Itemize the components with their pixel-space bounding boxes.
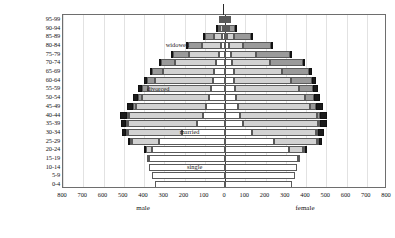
- bar-segment-married: [129, 112, 203, 119]
- bar-segment-married: [128, 129, 182, 136]
- bar-segment-single: [149, 155, 225, 162]
- y-tick-35-39: 35-39: [34, 119, 60, 126]
- bar-segment-widowed: [173, 51, 189, 58]
- pyramid-bar-row: [63, 85, 385, 92]
- annotation-single: single: [187, 163, 202, 171]
- bar-segment-single: [225, 85, 235, 92]
- pyramid-bar-row: [63, 94, 385, 101]
- bar-segment-widowed: [270, 59, 303, 66]
- bar-segment-married: [189, 51, 219, 58]
- bar-segment-married: [235, 85, 299, 92]
- pyramid-bar-female: [225, 85, 318, 92]
- bar-segment-widowed: [291, 77, 311, 84]
- x-axis-tick-labels: 8007006005004003002001000100200300400500…: [62, 190, 386, 200]
- x-tick-11: 300: [280, 190, 290, 199]
- bar-segment-married: [238, 103, 311, 110]
- bar-segment-married: [136, 103, 206, 110]
- bar-segment-married: [240, 112, 317, 119]
- y-tick-90-94: 90-94: [34, 24, 60, 31]
- x-tick-15: 700: [361, 190, 371, 199]
- bar-segment-married: [252, 129, 316, 136]
- bar-segment-widowed: [161, 59, 175, 66]
- pyramid-bar-row: [63, 51, 385, 58]
- pyramid-bar-row: [63, 59, 385, 66]
- bar-segment-single: [209, 94, 225, 101]
- bar-segment-widowed: [152, 68, 163, 75]
- gender-label-male: male: [136, 203, 150, 214]
- bar-segment-divorced: [313, 85, 318, 92]
- pyramid-bar-female: [225, 146, 307, 153]
- y-tick-15-19: 15-19: [34, 154, 60, 161]
- bar-segment-divorced: [235, 25, 237, 32]
- bar-segment-single: [214, 68, 225, 75]
- bar-segment-widowed: [234, 33, 251, 40]
- bar-segment-widowed: [299, 85, 313, 92]
- x-tick-6: 200: [179, 190, 189, 199]
- bar-segment-divorced: [320, 112, 327, 119]
- bar-segment-single: [216, 59, 225, 66]
- bar-segment-divorced: [320, 120, 327, 127]
- pyramid-bar-male: [171, 51, 225, 58]
- bar-segment-single: [225, 146, 289, 153]
- pyramid-bar-female: [225, 42, 273, 49]
- bar-segment-widowed: [282, 68, 309, 75]
- pyramid-bar-female: [225, 59, 305, 66]
- y-tick-25-29: 25-29: [34, 137, 60, 144]
- pyramid-bar-male: [121, 120, 225, 127]
- x-tick-8: 0: [222, 190, 225, 199]
- pyramid-bar-row: [63, 103, 385, 110]
- y-tick-45-49: 45-49: [34, 102, 60, 109]
- bar-segment-married: [202, 42, 221, 49]
- x-tick-2: 600: [98, 190, 108, 199]
- population-pyramid-chart: age group 0-45-910-1415-1920-2425-2930-3…: [0, 0, 395, 238]
- bar-segment-married: [132, 138, 159, 145]
- pyramid-bar-female: [225, 94, 320, 101]
- bar-segment-widowed: [305, 94, 314, 101]
- bar-segment-divorced: [309, 68, 312, 75]
- x-tick-0: 800: [57, 190, 67, 199]
- bar-segment-married: [142, 94, 209, 101]
- bar-segment-widowed: [147, 77, 155, 84]
- x-tick-9: 100: [239, 190, 249, 199]
- pyramid-bar-male: [122, 129, 225, 136]
- x-tick-5: 300: [158, 190, 168, 199]
- bar-segment-divorced: [319, 138, 322, 145]
- bar-segment-single: [225, 155, 298, 162]
- bar-segment-single: [225, 94, 236, 101]
- bar-segment-single: [213, 77, 225, 84]
- bar-segment-divorced: [314, 94, 320, 101]
- bar-segment-married: [231, 51, 256, 58]
- pyramid-bar-male: [155, 181, 225, 188]
- bar-segment-single: [225, 120, 243, 127]
- bar-segment-single: [197, 120, 225, 127]
- bar-segment-married: [243, 120, 318, 127]
- bar-segment-divorced: [312, 77, 316, 84]
- x-tick-1: 700: [77, 190, 87, 199]
- bar-segment-widowed: [188, 42, 202, 49]
- bar-segment-single: [225, 181, 292, 188]
- x-axis-gender-labels: malefemale: [62, 203, 386, 215]
- pyramid-bar-row: [63, 33, 385, 40]
- y-axis-tick-labels: 0-45-910-1415-1920-2425-2930-3435-3940-4…: [32, 14, 60, 188]
- y-tick-75-79: 75-79: [34, 50, 60, 57]
- y-tick-60-64: 60-64: [34, 76, 60, 83]
- pyramid-bar-row: [63, 112, 385, 119]
- pyramid-bar-male: [147, 155, 225, 162]
- bar-segment-single: [206, 103, 225, 110]
- bar-segment-widowed: [243, 42, 270, 49]
- pyramid-bar-female: [225, 16, 228, 23]
- pyramid-bar-row: [63, 146, 385, 153]
- bar-segment-married: [229, 42, 243, 49]
- bar-segment-married: [289, 146, 303, 153]
- bar-segment-widowed: [205, 33, 213, 40]
- bar-segment-married: [234, 77, 291, 84]
- y-tick-50-54: 50-54: [34, 93, 60, 100]
- pyramid-bar-female: [225, 120, 327, 127]
- y-tick-40-44: 40-44: [34, 111, 60, 118]
- pyramid-bar-female: [225, 181, 292, 188]
- bar-segment-married: [175, 59, 217, 66]
- bar-segment-widowed: [256, 51, 290, 58]
- pyramid-bar-row: [63, 25, 385, 32]
- pyramid-bar-male: [186, 42, 225, 49]
- y-tick-95-99: 95-99: [34, 15, 60, 22]
